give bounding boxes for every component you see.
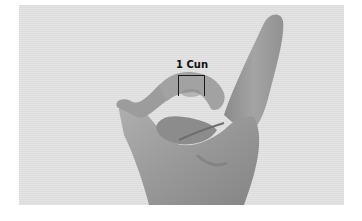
- index-finger: [224, 14, 283, 135]
- cun-measurement-label: 1 Cun: [176, 59, 208, 70]
- hand-photo: [19, 5, 344, 205]
- cun-measurement-bracket: [178, 75, 205, 96]
- photo-panel: 1 Cun: [19, 5, 344, 205]
